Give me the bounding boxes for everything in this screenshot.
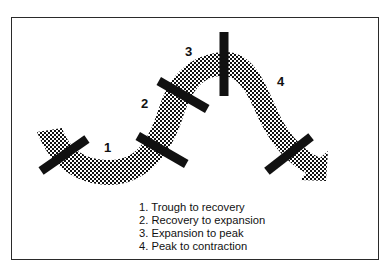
legend-item-3: 3. Expansion to peak: [139, 227, 265, 240]
phase-label-4: 4: [277, 74, 284, 89]
phase-label-1: 1: [104, 140, 111, 155]
phase-label-2: 2: [141, 96, 148, 111]
legend-item-4: 4. Peak to contraction: [139, 240, 265, 253]
legend: 1. Trough to recovery 2. Recovery to exp…: [139, 201, 265, 253]
legend-item-1: 1. Trough to recovery: [139, 201, 265, 214]
phase-label-3: 3: [185, 44, 192, 59]
marker-peak: [220, 32, 229, 96]
legend-item-2: 2. Recovery to expansion: [139, 214, 265, 227]
